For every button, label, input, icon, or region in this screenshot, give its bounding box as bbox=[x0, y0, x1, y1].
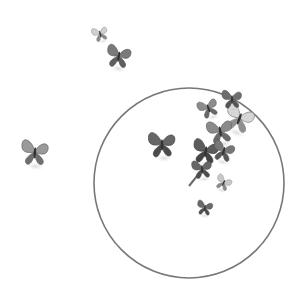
butterfly-circle-illustration bbox=[0, 0, 300, 302]
